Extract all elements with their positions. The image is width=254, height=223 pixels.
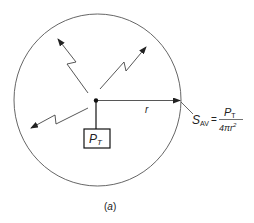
radius-label: r [145, 104, 149, 115]
power-density-formula: SAV = PT 4πr2 [192, 106, 243, 133]
radiation-arrow-lower-left [31, 108, 88, 128]
svg-text:SAV: SAV [192, 113, 209, 127]
radiation-arrow-upper-left [58, 39, 88, 93]
isotropic-radiator-diagram: PT r SAV = PT 4πr2 (a) [0, 0, 254, 223]
svg-text:=: = [211, 114, 217, 125]
figure-caption: (a) [104, 201, 116, 212]
svg-text:4πr2: 4πr2 [219, 122, 237, 133]
svg-text:PT: PT [224, 106, 236, 119]
radiation-arrow-upper-right [100, 47, 146, 89]
